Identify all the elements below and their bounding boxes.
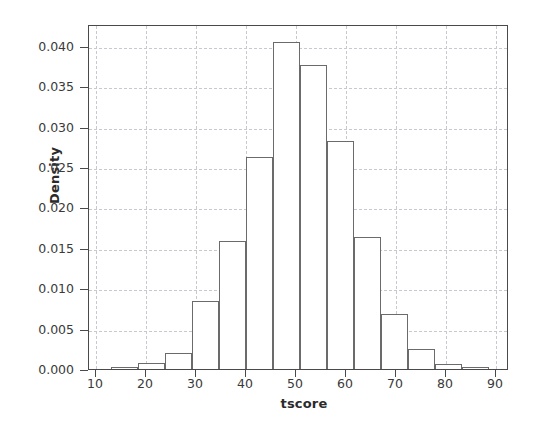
y-tick-mark bbox=[80, 249, 88, 250]
histogram-bar bbox=[138, 363, 165, 369]
y-tick-mark bbox=[80, 289, 88, 290]
histogram-bar bbox=[273, 42, 300, 369]
x-tick-mark bbox=[95, 370, 96, 377]
y-tick-mark bbox=[80, 370, 88, 371]
x-axis-title: tscore bbox=[104, 396, 504, 411]
histogram-bar bbox=[192, 301, 219, 369]
y-tick-label: 0.040 bbox=[28, 39, 74, 54]
histogram-figure: Density tscore 0.0000.0050.0100.0150.020… bbox=[0, 0, 544, 424]
x-tick-mark bbox=[395, 370, 396, 377]
y-tick-mark bbox=[80, 330, 88, 331]
y-tick-label: 0.010 bbox=[28, 281, 74, 296]
gridline-vertical bbox=[496, 26, 497, 369]
x-tick-mark bbox=[445, 370, 446, 377]
y-tick-label: 0.020 bbox=[28, 200, 74, 215]
y-tick-mark bbox=[80, 128, 88, 129]
histogram-bar bbox=[246, 157, 273, 369]
y-tick-mark bbox=[80, 47, 88, 48]
gridline-vertical bbox=[96, 26, 97, 369]
x-tick-label: 40 bbox=[225, 376, 265, 391]
x-tick-mark bbox=[295, 370, 296, 377]
y-tick-mark bbox=[80, 208, 88, 209]
plot-area bbox=[88, 25, 508, 370]
x-tick-label: 80 bbox=[425, 376, 465, 391]
x-tick-label: 50 bbox=[275, 376, 315, 391]
histogram-bar bbox=[381, 314, 408, 369]
histogram-bar bbox=[462, 367, 489, 369]
y-tick-label: 0.025 bbox=[28, 160, 74, 175]
histogram-bar bbox=[111, 367, 138, 369]
y-tick-mark bbox=[80, 168, 88, 169]
x-tick-mark bbox=[345, 370, 346, 377]
x-tick-label: 10 bbox=[75, 376, 115, 391]
histogram-bar bbox=[408, 349, 435, 369]
gridline-vertical bbox=[446, 26, 447, 369]
histogram-bar bbox=[165, 353, 192, 369]
y-tick-label: 0.015 bbox=[28, 241, 74, 256]
y-tick-label: 0.005 bbox=[28, 322, 74, 337]
gridline-vertical bbox=[146, 26, 147, 369]
histogram-bar bbox=[300, 65, 327, 369]
x-tick-mark bbox=[145, 370, 146, 377]
histogram-bar bbox=[354, 237, 381, 369]
x-tick-label: 90 bbox=[475, 376, 515, 391]
x-tick-mark bbox=[245, 370, 246, 377]
x-tick-label: 60 bbox=[325, 376, 365, 391]
x-tick-mark bbox=[195, 370, 196, 377]
y-tick-label: 0.035 bbox=[28, 79, 74, 94]
y-axis-tick-labels: 0.0000.0050.0100.0150.0200.0250.0300.035… bbox=[22, 0, 74, 424]
y-tick-label: 0.030 bbox=[28, 120, 74, 135]
histogram-bar bbox=[219, 241, 246, 369]
histogram-bar bbox=[327, 141, 354, 369]
x-tick-label: 20 bbox=[125, 376, 165, 391]
y-tick-mark bbox=[80, 87, 88, 88]
x-tick-label: 30 bbox=[175, 376, 215, 391]
x-tick-label: 70 bbox=[375, 376, 415, 391]
y-tick-label: 0.000 bbox=[28, 362, 74, 377]
x-tick-mark bbox=[495, 370, 496, 377]
histogram-bar bbox=[435, 364, 462, 369]
